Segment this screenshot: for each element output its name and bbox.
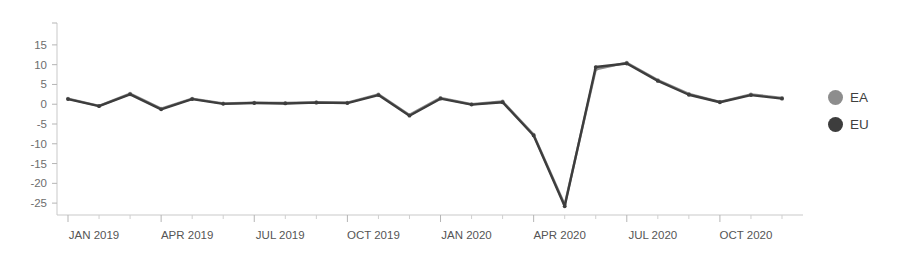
y-axis: 151050-5-10-15-20-25 (30, 23, 57, 215)
data-point (718, 100, 722, 104)
x-tick-label: OCT 2019 (347, 229, 400, 241)
data-point (408, 114, 412, 118)
data-point (252, 101, 256, 105)
data-point (314, 101, 318, 105)
y-tick-label: 15 (34, 39, 47, 51)
data-point (439, 97, 443, 101)
x-axis: JAN 2019APR 2019JUL 2019OCT 2019JAN 2020… (57, 215, 803, 241)
x-tick-label: JUL 2019 (256, 229, 305, 241)
x-tick-label: JAN 2020 (441, 229, 492, 241)
data-point (470, 103, 474, 107)
series-lines (66, 61, 784, 208)
legend-label-eu: EU (850, 117, 869, 132)
data-point (501, 100, 505, 104)
data-point (159, 107, 163, 111)
series-line-eu (68, 63, 782, 206)
data-point (283, 102, 287, 106)
x-tick-label: APR 2019 (161, 229, 213, 241)
data-point (221, 102, 225, 106)
x-tick-label: OCT 2020 (719, 229, 772, 241)
y-tick-label: -5 (37, 118, 47, 130)
x-tick-label: APR 2020 (533, 229, 585, 241)
y-tick-label: -15 (30, 158, 47, 170)
data-point (128, 92, 132, 96)
y-tick-label: -20 (30, 177, 47, 189)
data-point (345, 101, 349, 105)
y-tick-label: 10 (34, 59, 47, 71)
legend-label-ea: EA (850, 90, 868, 105)
chart-canvas: 151050-5-10-15-20-25 JAN 2019APR 2019JUL… (0, 0, 897, 269)
data-point (656, 79, 660, 83)
data-point (563, 204, 567, 208)
data-point (625, 62, 629, 66)
data-point (66, 97, 70, 101)
series-line-ea (68, 63, 782, 205)
y-tick-label: -25 (30, 197, 47, 209)
y-tick-label: -10 (30, 138, 47, 150)
x-tick-label: JUL 2020 (628, 229, 677, 241)
data-point (190, 97, 194, 101)
data-point (532, 134, 536, 138)
legend-swatch-eu (828, 117, 843, 132)
line-chart: 151050-5-10-15-20-25 JAN 2019APR 2019JUL… (0, 0, 897, 269)
legend-item-eu[interactable]: EU (828, 117, 869, 132)
y-tick-label: 0 (41, 98, 47, 110)
legend-swatch-ea (828, 90, 843, 105)
data-point (594, 65, 598, 69)
data-point (780, 97, 784, 101)
y-tick-label: 5 (41, 78, 47, 90)
x-tick-label: JAN 2019 (69, 229, 120, 241)
data-point (97, 104, 101, 108)
legend-item-ea[interactable]: EA (828, 90, 868, 105)
data-point (377, 93, 381, 97)
data-point (749, 93, 753, 97)
data-point (687, 93, 691, 97)
